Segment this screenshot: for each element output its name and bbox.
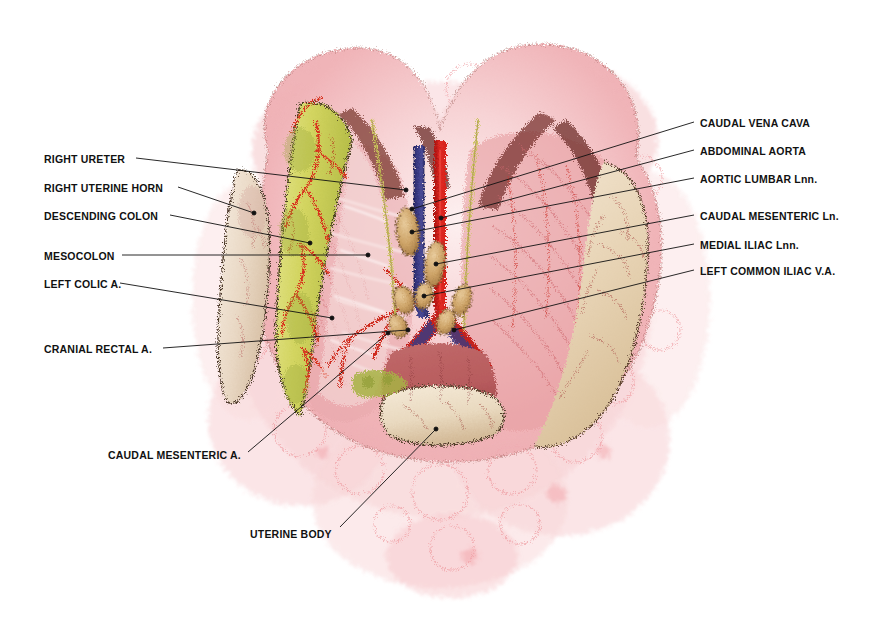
label-cranial-rectal-a: CRANIAL RECTAL A. [44,344,152,355]
leader-dot-left-colic-a [330,316,334,320]
label-right-uterine-horn: RIGHT UTERINE HORN [44,183,163,194]
leader-dot-cranial-rectal-a [406,328,410,332]
anatomical-illustration: RIGHT URETERRIGHT UTERINE HORNDESCENDING… [0,0,880,621]
leader-dot-aortic-lumbar-lnn [410,230,414,234]
label-left-colic-a: LEFT COLIC A. [44,279,121,290]
label-medial-iliac-lnn: MEDIAL ILIAC Lnn. [700,240,799,251]
anatomy-artwork [0,0,880,621]
leader-dot-caudal-mesenteric-a [386,331,390,335]
label-caudal-vena-cava: CAUDAL VENA CAVA [700,118,810,129]
label-left-common-iliac-va: LEFT COMMON ILIAC V.A. [700,266,835,277]
leader-dot-left-common-iliac-va [452,328,456,332]
label-caudal-mesenteric-ln: CAUDAL MESENTERIC Ln. [700,211,839,222]
label-aortic-lumbar-lnn: AORTIC LUMBAR Lnn. [700,174,817,185]
leader-dot-right-uterine-horn [252,211,256,215]
leader-dot-medial-iliac-lnn [422,294,426,298]
leader-dot-caudal-mesenteric-ln [434,262,438,266]
label-caudal-mesenteric-a: CAUDAL MESENTERIC A. [108,450,241,461]
leader-dot-caudal-vena-cava [410,207,414,211]
label-descending-colon: DESCENDING COLON [44,211,158,222]
leader-dot-right-ureter [404,188,408,192]
leader-dot-descending-colon [308,241,312,245]
label-right-ureter: RIGHT URETER [44,154,125,165]
label-mesocolon: MESOCOLON [44,251,115,262]
label-abdominal-aorta: ABDOMINAL AORTA [700,146,806,157]
label-uterine-body: UTERINE BODY [250,529,332,540]
leader-dot-abdominal-aorta [439,216,443,220]
leader-dot-mesocolon [366,253,370,257]
leader-dot-uterine-body [434,427,438,431]
